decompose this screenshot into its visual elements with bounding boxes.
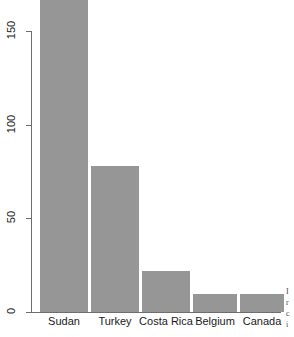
bar-turkey	[91, 166, 139, 312]
x-axis-label-costa-rica: Costa Rica	[138, 315, 194, 327]
y-axis-label-0: 0	[5, 298, 17, 324]
y-axis-label-150: 150	[5, 17, 17, 43]
bar-chart-plot: 150 100 50 0 Sudan Turkey Costa Rica Bel…	[0, 0, 294, 337]
clipped-caption: I r c i	[286, 286, 294, 330]
bar-belgium	[193, 294, 237, 312]
clipped-caption-line-4: i	[286, 319, 294, 330]
x-axis-line	[31, 312, 281, 313]
x-axis-label-sudan: Sudan	[40, 315, 88, 327]
bar-costa-rica	[142, 271, 190, 312]
y-tick-50	[26, 218, 32, 219]
x-axis-label-belgium: Belgium	[191, 315, 239, 327]
x-axis-label-turkey: Turkey	[91, 315, 139, 327]
y-tick-150	[26, 31, 32, 32]
y-axis-label-50: 50	[5, 204, 17, 230]
clipped-caption-line-1: I	[286, 286, 294, 297]
chart-screenshot: 150 100 50 0 Sudan Turkey Costa Rica Bel…	[0, 0, 294, 337]
clipped-caption-line-2: r	[286, 297, 294, 308]
x-axis-label-canada: Canada	[240, 315, 284, 327]
y-tick-0	[26, 312, 32, 313]
bar-canada	[240, 294, 284, 312]
bar-sudan	[40, 0, 88, 312]
y-axis-line	[31, 31, 32, 312]
y-tick-100	[26, 125, 32, 126]
y-axis-label-100: 100	[5, 111, 17, 137]
clipped-caption-line-3: c	[286, 308, 294, 319]
